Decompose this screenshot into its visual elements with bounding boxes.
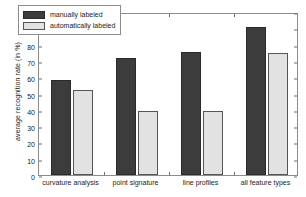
bar-chart-figure: average recognition rate (in %) 01020304… (0, 0, 306, 197)
y-tick-mark (39, 79, 42, 80)
y-tick-mark (294, 111, 297, 112)
y-tick-label: 10 (27, 157, 39, 164)
legend-item-manually-labeled: manually labeled (23, 9, 115, 20)
x-tick-mark (169, 172, 170, 175)
y-tick-mark (39, 95, 42, 96)
legend-item-automatically-labeled: automatically labeled (23, 20, 115, 31)
bar-manually-labeled (246, 27, 266, 175)
chart-legend: manually labeled automatically labeled (18, 5, 121, 35)
bar-manually-labeled (181, 52, 201, 175)
light-swatch-icon (23, 22, 45, 30)
y-tick-mark (294, 46, 297, 47)
y-tick-label: 20 (27, 141, 39, 148)
y-tick-mark (39, 144, 42, 145)
x-tick-mark (234, 172, 235, 175)
y-tick-mark (39, 111, 42, 112)
x-category-label: point signature (113, 179, 159, 186)
y-tick-mark (39, 128, 42, 129)
plot-area: 0102030405060708090100 (38, 13, 298, 176)
y-tick-mark (294, 30, 297, 31)
x-tick-mark (104, 172, 105, 175)
bar-automatically-labeled (73, 90, 93, 175)
y-tick-mark (39, 62, 42, 63)
x-category-label: all feature types (241, 179, 290, 186)
legend-label: manually labeled (50, 11, 103, 18)
y-tick-mark (39, 46, 42, 47)
y-tick-mark (39, 177, 42, 178)
y-tick-mark (39, 160, 42, 161)
y-tick-label: 40 (27, 108, 39, 115)
x-category-label: curvature analysis (42, 179, 98, 186)
y-tick-mark (294, 144, 297, 145)
y-tick-mark (294, 95, 297, 96)
dark-swatch-icon (23, 11, 45, 19)
y-tick-mark (294, 62, 297, 63)
y-tick-mark (294, 177, 297, 178)
y-tick-label: 80 (27, 43, 39, 50)
y-tick-mark (294, 128, 297, 129)
y-tick-label: 50 (27, 92, 39, 99)
bar-automatically-labeled (138, 111, 158, 175)
y-tick-label: 30 (27, 125, 39, 132)
legend-label: automatically labeled (50, 22, 115, 29)
x-tick-mark (169, 14, 170, 17)
y-tick-mark (294, 14, 297, 15)
y-tick-mark (294, 79, 297, 80)
y-tick-label: 70 (27, 59, 39, 66)
x-tick-mark (234, 14, 235, 17)
bar-automatically-labeled (203, 111, 223, 175)
y-tick-mark (294, 160, 297, 161)
bar-automatically-labeled (268, 53, 288, 175)
y-tick-label: 0 (31, 174, 39, 181)
x-category-label: line profiles (183, 179, 218, 186)
y-tick-label: 60 (27, 76, 39, 83)
bar-manually-labeled (116, 58, 136, 175)
bar-manually-labeled (51, 80, 71, 175)
